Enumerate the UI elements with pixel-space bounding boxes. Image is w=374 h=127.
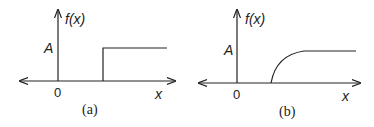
x-axis-label: x [154, 86, 163, 102]
level-label: A [223, 42, 233, 58]
smooth-rise-curve [271, 51, 356, 83]
step-function-curve [103, 48, 167, 81]
y-axis-label: f(x) [245, 11, 265, 27]
y-axis-label: f(x) [65, 11, 85, 27]
panel-caption: (b) [279, 104, 296, 120]
panel-a: f(x) A 0 x (a) [20, 10, 175, 118]
figure: f(x) A 0 x (a) f(x) A 0 x (b) [0, 0, 374, 127]
x-axis-label: x [341, 88, 350, 104]
panel-caption: (a) [82, 102, 98, 118]
origin-label: 0 [233, 87, 240, 102]
panel-b: f(x) A 0 x (b) [199, 10, 360, 120]
origin-label: 0 [54, 85, 61, 100]
level-label: A [43, 40, 53, 56]
